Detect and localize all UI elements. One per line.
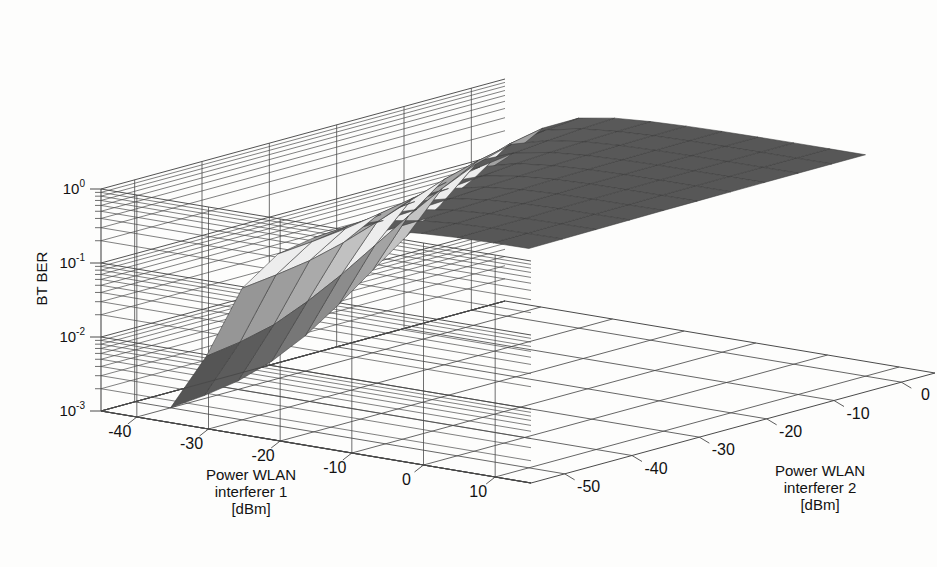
y-axis-title-line: [dBm] [775, 496, 865, 513]
z-tick-label: 10-2 [59, 326, 85, 345]
z-tick-label: 100 [63, 178, 86, 197]
z-axis-title: BT BER [33, 234, 50, 324]
x-tick-label: 0 [402, 471, 411, 488]
x-axis-title-line: Power WLAN [206, 466, 296, 483]
x-axis-title: Power WLANinterferer 1[dBm] [206, 466, 296, 517]
y-axis-title-line: Power WLAN [775, 462, 865, 479]
x-tick-label: -40 [108, 423, 131, 440]
y-tick-label: -40 [644, 460, 667, 477]
x-tick-label: -30 [180, 435, 203, 452]
x-tick-label: 10 [469, 483, 487, 500]
y-tick-label: 0 [921, 386, 930, 403]
y-tick-label: -10 [846, 405, 869, 422]
figure-canvas: 10010-110-210-3-40-30-20-10010-50-40-30-… [0, 0, 937, 567]
z-tick-label: 10-1 [59, 252, 85, 271]
x-axis-title-line: interferer 1 [206, 483, 296, 500]
x-tick-label: -10 [323, 459, 346, 476]
y-axis-title: Power WLANinterferer 2[dBm] [775, 462, 865, 513]
x-tick-label: -20 [252, 447, 275, 464]
z-tick-label: 10-3 [59, 400, 85, 419]
y-axis-title-line: interferer 2 [775, 479, 865, 496]
y-tick-label: -50 [577, 478, 600, 495]
y-tick-label: -20 [779, 423, 802, 440]
y-tick-label: -30 [712, 441, 735, 458]
surface-mesh [171, 118, 866, 408]
x-axis-title-line: [dBm] [206, 500, 296, 517]
